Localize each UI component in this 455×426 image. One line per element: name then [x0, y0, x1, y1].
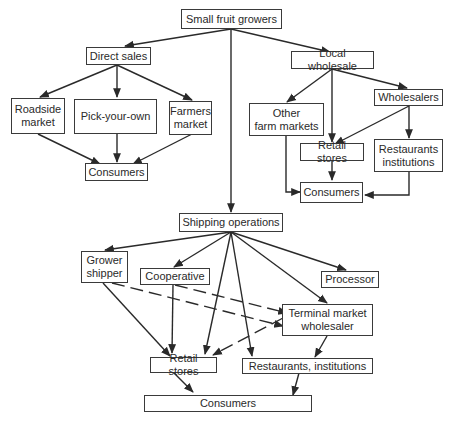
node-local-wholesale: Local wholesale	[291, 51, 374, 69]
node-consumers-shipping: Consumers	[144, 395, 312, 412]
node-retail-stores-shipping: Retail stores	[150, 357, 217, 373]
node-farmers-market: Farmers market	[169, 101, 212, 135]
node-grower-shipper: Grower shipper	[81, 251, 128, 283]
node-other-farm-markets: Other farm markets	[249, 103, 324, 136]
node-direct-sales: Direct sales	[86, 47, 151, 65]
node-restaurants-institutions-shipping: Restaurants, institutions	[242, 358, 373, 374]
node-roadside-market: Roadside market	[11, 98, 65, 134]
node-shipping-operations: Shipping operations	[179, 213, 283, 232]
node-cooperative: Cooperative	[140, 268, 210, 285]
node-pick-your-own: Pick-your-own	[74, 99, 157, 134]
node-restaurants-institutions-local: Restaurants institutions	[374, 139, 443, 172]
node-small-fruit-growers: Small fruit growers	[181, 9, 282, 29]
node-processor: Processor	[321, 271, 379, 288]
node-wholesalers: Wholesalers	[374, 89, 443, 106]
node-terminal-market-wholesaler: Terminal market wholesaler	[282, 304, 373, 336]
node-consumers-direct: Consumers	[85, 163, 148, 181]
node-consumers-local: Consumers	[300, 182, 363, 203]
node-retail-stores-local: Retail stores	[300, 143, 364, 161]
